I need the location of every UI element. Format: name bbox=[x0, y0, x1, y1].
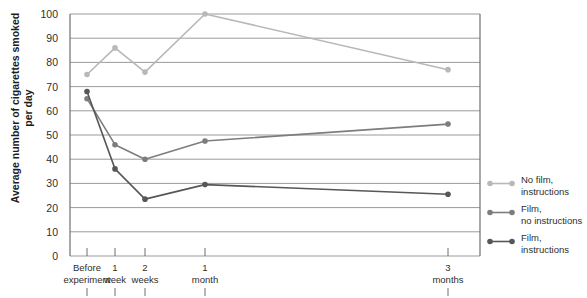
data-point bbox=[445, 191, 451, 197]
series-2 bbox=[84, 89, 451, 202]
data-point bbox=[84, 72, 90, 78]
series-1 bbox=[84, 96, 451, 162]
legend-label: Film, instructions bbox=[521, 232, 569, 255]
legend-label: Film, no instructions bbox=[521, 203, 582, 226]
legend-swatch bbox=[487, 237, 515, 246]
data-point bbox=[112, 142, 118, 148]
series-0 bbox=[84, 11, 451, 77]
y-tick-label: 100 bbox=[30, 9, 58, 19]
series-line bbox=[87, 99, 448, 160]
y-tick-label: 60 bbox=[30, 106, 58, 116]
y-tick-label: 70 bbox=[30, 82, 58, 92]
y-tick-label: 50 bbox=[30, 130, 58, 140]
x-tick-label-line: 1 bbox=[170, 262, 240, 274]
legend-swatch bbox=[487, 208, 515, 217]
y-tick-label: 10 bbox=[30, 227, 58, 237]
x-tick-label: 1month bbox=[170, 262, 240, 285]
y-tick-label: 0 bbox=[30, 251, 58, 261]
legend-label: No film, instructions bbox=[521, 174, 569, 197]
y-tick-label: 40 bbox=[30, 154, 58, 164]
chart-container: Average number of cigarettes smoked per … bbox=[0, 0, 587, 298]
y-tick-label: 30 bbox=[30, 178, 58, 188]
data-point bbox=[112, 166, 118, 172]
legend-item[interactable]: Film, instructions bbox=[487, 234, 587, 261]
data-point bbox=[142, 156, 148, 162]
y-tick-label: 20 bbox=[30, 203, 58, 213]
x-tick-label-line: 3 bbox=[413, 262, 483, 274]
y-tick-label: 90 bbox=[30, 33, 58, 43]
data-point bbox=[202, 182, 208, 188]
legend-item[interactable]: No film, instructions bbox=[487, 176, 587, 203]
y-tick-label: 80 bbox=[30, 57, 58, 67]
data-point bbox=[112, 45, 118, 51]
legend-item[interactable]: Film, no instructions bbox=[487, 205, 587, 232]
data-point bbox=[202, 138, 208, 144]
data-point bbox=[142, 196, 148, 202]
x-tick-label: 3months bbox=[413, 262, 483, 285]
data-point bbox=[445, 121, 451, 127]
x-tick-label-line: months bbox=[413, 274, 483, 286]
data-point bbox=[445, 67, 451, 73]
legend-swatch bbox=[487, 179, 515, 188]
series-line bbox=[87, 14, 448, 75]
data-point bbox=[202, 11, 208, 17]
data-point bbox=[142, 69, 148, 75]
data-point bbox=[84, 89, 90, 95]
chart-legend: No film, instructionsFilm, no instructio… bbox=[487, 176, 587, 263]
x-tick-label-line: month bbox=[170, 274, 240, 286]
